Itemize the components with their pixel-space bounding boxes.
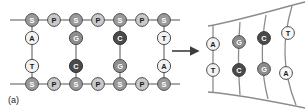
ladder-node-phosphate: P xyxy=(92,14,105,27)
helix-base-guanine: G xyxy=(233,36,246,49)
helix-base-cytosine: C xyxy=(233,64,246,77)
ladder-node-sugar: S xyxy=(114,14,127,27)
ladder-node-sugar: S xyxy=(70,78,83,91)
dna-diagram-canvas: S P S P S xyxy=(0,0,306,110)
figure-label: (a) xyxy=(8,95,19,105)
ladder-node-phosphate: P xyxy=(48,14,61,27)
ladder-base-guanine: G xyxy=(69,31,82,44)
helix-rung-4 xyxy=(285,6,296,105)
ladder-node-sugar: S xyxy=(158,78,171,91)
dna-structure-figure: S P S P S xyxy=(0,0,306,110)
ladder-node-phosphate: P xyxy=(136,14,149,27)
ladder-base-thymine: T xyxy=(157,31,170,44)
helix-diagram: A T G C C xyxy=(207,2,305,108)
helix-base-cytosine: C xyxy=(258,32,271,45)
ladder-base-guanine: G xyxy=(113,59,126,72)
helix-base-thymine: T xyxy=(282,27,295,40)
ladder-node-sugar: S xyxy=(26,78,39,91)
helix-bottom-rail xyxy=(208,92,305,108)
ladder-base-cytosine: C xyxy=(113,31,126,44)
helix-rung-3 xyxy=(262,15,268,99)
ladder-base-cytosine: C xyxy=(69,59,82,72)
helix-base-adenine: A xyxy=(207,38,220,51)
ladder-base-thymine: T xyxy=(25,59,38,72)
helix-rungs xyxy=(213,6,296,105)
bottom-backbone-nodes: S P S P S xyxy=(26,78,171,91)
ladder-node-sugar: S xyxy=(114,78,127,91)
ladder-node-phosphate: P xyxy=(136,78,149,91)
ladder-node-sugar: S xyxy=(158,14,171,27)
top-backbone-nodes: S P S P S xyxy=(26,14,171,27)
base-pair-rungs xyxy=(32,20,164,84)
ladder-node-phosphate: P xyxy=(48,78,61,91)
ladder-node-phosphate: P xyxy=(92,78,105,91)
ladder-diagram: S P S P S xyxy=(10,14,180,91)
ladder-base-adenine: A xyxy=(25,31,38,44)
helix-rung-2 xyxy=(239,22,241,95)
helix-base-nodes: A T G C C xyxy=(207,27,295,80)
helix-base-thymine: T xyxy=(207,64,220,77)
ladder-base-adenine: A xyxy=(157,59,170,72)
ladder-node-sugar: S xyxy=(70,14,83,27)
helix-base-guanine: G xyxy=(258,63,271,76)
ladder-node-sugar: S xyxy=(26,14,39,27)
ladder-base-nodes: A T G C C xyxy=(25,31,170,72)
helix-base-adenine: A xyxy=(280,67,293,80)
